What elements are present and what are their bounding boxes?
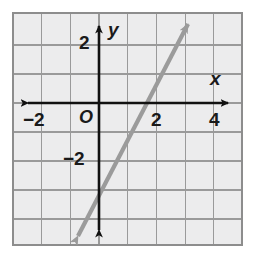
x-tick-label-2: 2	[151, 110, 162, 129]
x-axis-label: x	[210, 69, 221, 88]
y-axis-label: y	[108, 20, 119, 39]
coordinate-graph-figure: −2 2 4 2 −2 O x y	[0, 0, 256, 257]
x-tick-label-neg2: −2	[23, 110, 45, 129]
y-tick-label-2: 2	[79, 33, 90, 52]
origin-label: O	[79, 108, 93, 126]
y-tick-label-neg2: −2	[63, 149, 85, 168]
x-tick-label-4: 4	[209, 110, 220, 129]
